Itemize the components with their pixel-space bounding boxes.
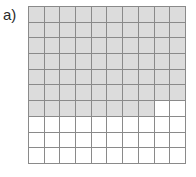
grid-cell <box>138 148 154 164</box>
grid-cell <box>170 38 186 54</box>
grid-row <box>29 132 186 148</box>
grid-cell <box>44 54 60 70</box>
grid-cell <box>91 38 107 54</box>
grid-cell <box>170 85 186 101</box>
grid-cell <box>154 116 170 132</box>
grid-cell <box>154 38 170 54</box>
grid-cell <box>107 22 123 38</box>
grid-cell <box>29 7 45 23</box>
grid-cell <box>138 54 154 70</box>
cell-grid <box>28 6 186 164</box>
grid-cell <box>138 116 154 132</box>
grid-cell <box>29 38 45 54</box>
grid-cell <box>138 101 154 117</box>
grid-cell <box>107 101 123 117</box>
grid-cell <box>123 22 139 38</box>
grid-cell <box>123 132 139 148</box>
figure-panel-a: a) <box>0 0 196 177</box>
grid-cell <box>60 7 76 23</box>
grid-cell <box>154 69 170 85</box>
grid-cell <box>154 7 170 23</box>
grid-cell <box>138 38 154 54</box>
grid-cell <box>170 148 186 164</box>
grid-cell <box>29 22 45 38</box>
grid-cell <box>123 101 139 117</box>
grid-cell <box>76 69 92 85</box>
grid-cell <box>76 132 92 148</box>
grid-cell <box>107 116 123 132</box>
grid-cell <box>123 85 139 101</box>
grid-cell <box>170 22 186 38</box>
grid-cell <box>29 132 45 148</box>
grid-cell <box>123 69 139 85</box>
grid-cell <box>154 132 170 148</box>
grid-cell <box>29 85 45 101</box>
grid-cell <box>91 116 107 132</box>
grid-cell <box>154 85 170 101</box>
grid-cell <box>76 148 92 164</box>
grid-cell <box>138 132 154 148</box>
grid-cell <box>91 85 107 101</box>
grid-cell <box>170 69 186 85</box>
grid-cell <box>154 54 170 70</box>
grid-row <box>29 7 186 23</box>
panel-label: a) <box>3 6 16 24</box>
grid-cell <box>138 69 154 85</box>
grid-cell <box>60 22 76 38</box>
grid-row <box>29 116 186 132</box>
grid-row <box>29 101 186 117</box>
grid-cell <box>60 116 76 132</box>
grid-cell <box>170 116 186 132</box>
grid-cell <box>107 69 123 85</box>
grid-cell <box>91 22 107 38</box>
grid-cell <box>91 69 107 85</box>
grid-cell <box>123 7 139 23</box>
grid-cell <box>76 101 92 117</box>
grid-row <box>29 69 186 85</box>
grid-cell <box>44 132 60 148</box>
grid-cell <box>76 116 92 132</box>
grid-cell <box>76 7 92 23</box>
grid-cell <box>107 38 123 54</box>
grid-cell <box>44 148 60 164</box>
grid-cell <box>60 101 76 117</box>
grid-cell <box>123 148 139 164</box>
grid-cell <box>60 54 76 70</box>
grid-cell <box>76 54 92 70</box>
grid-cell <box>44 116 60 132</box>
grid-cell <box>91 54 107 70</box>
grid-row <box>29 38 186 54</box>
grid-cell <box>44 38 60 54</box>
grid-cell <box>44 85 60 101</box>
grid-cell <box>60 38 76 54</box>
grid-cell <box>29 101 45 117</box>
grid-cell <box>107 85 123 101</box>
grid-cell <box>170 7 186 23</box>
grid-cell <box>76 22 92 38</box>
grid-cell <box>138 7 154 23</box>
grid-cell <box>44 22 60 38</box>
grid-cell <box>91 7 107 23</box>
grid-cell <box>76 38 92 54</box>
grid-cell <box>123 54 139 70</box>
grid-cell <box>91 148 107 164</box>
grid-cell <box>91 101 107 117</box>
grid-row <box>29 54 186 70</box>
grid-cell <box>170 132 186 148</box>
grid-cell <box>29 54 45 70</box>
grid-row <box>29 85 186 101</box>
grid-cell <box>44 69 60 85</box>
grid-cell <box>154 22 170 38</box>
grid-cell <box>29 116 45 132</box>
grid-cell <box>154 148 170 164</box>
grid-row <box>29 148 186 164</box>
grid-cell <box>170 101 186 117</box>
grid-cell <box>107 7 123 23</box>
grid-cell <box>44 101 60 117</box>
grid-cell <box>138 22 154 38</box>
grid-cell <box>154 101 170 117</box>
grid-cell <box>123 116 139 132</box>
grid-cell <box>138 85 154 101</box>
grid-row <box>29 22 186 38</box>
grid-cell <box>107 54 123 70</box>
